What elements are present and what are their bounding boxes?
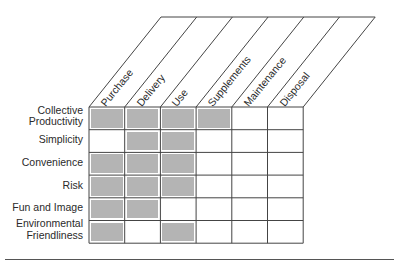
grid-lines	[0, 0, 394, 262]
grid-line	[268, 17, 340, 107]
grid-line	[125, 17, 197, 107]
grid-line	[160, 17, 232, 107]
grid-line	[303, 17, 375, 107]
buyer-utility-map: PurchaseDeliveryUseSupplementsMaintenanc…	[0, 0, 394, 262]
grid-line	[232, 17, 304, 107]
grid-line	[89, 17, 161, 107]
grid-line	[196, 17, 268, 107]
